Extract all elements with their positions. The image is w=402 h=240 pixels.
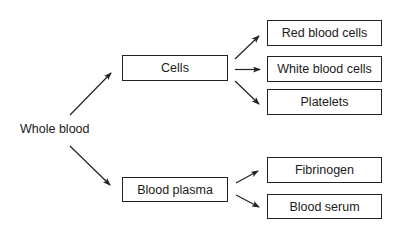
- node-platelets: Platelets: [267, 89, 382, 115]
- root-node-whole-blood: Whole blood: [20, 122, 90, 136]
- arrow-cells-to-platelets: [235, 81, 259, 104]
- node-fibrinogen: Fibrinogen: [267, 157, 382, 183]
- node-red-blood-cells: Red blood cells: [267, 20, 382, 46]
- arrow-whole-to-plasma: [70, 146, 110, 185]
- arrow-plasma-to-fibrinogen: [236, 171, 258, 183]
- node-blood-plasma: Blood plasma: [122, 177, 228, 202]
- node-blood-serum: Blood serum: [267, 194, 382, 219]
- node-white-blood-cells: White blood cells: [267, 56, 382, 82]
- arrow-plasma-to-serum: [236, 195, 259, 207]
- node-cells: Cells: [122, 55, 228, 81]
- arrow-cells-to-red: [235, 36, 259, 59]
- arrow-whole-to-cells: [70, 73, 111, 115]
